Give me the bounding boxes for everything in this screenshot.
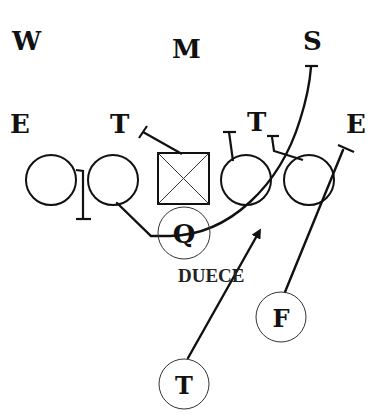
- right-guard-block: [223, 132, 236, 161]
- tailback-route: [188, 232, 259, 358]
- center-player: [158, 153, 209, 204]
- left-tackle-player: [26, 155, 76, 205]
- right-guard-player: [221, 155, 271, 205]
- quarterback-player: Q: [158, 207, 210, 259]
- defender-s-label: S: [303, 26, 322, 56]
- right-tackle-player: [284, 155, 334, 205]
- fullback-block-end: [338, 145, 354, 152]
- defender-right-end-label: E: [346, 109, 366, 139]
- defender-left-end-label: E: [10, 109, 30, 139]
- svg-text:Q: Q: [173, 219, 196, 249]
- fullback-player: F: [256, 292, 306, 342]
- defender-right-tackle-label: T: [247, 107, 267, 137]
- play-diagram: W M S E T T E Q DUECE: [0, 0, 375, 419]
- fullback-route: [285, 150, 343, 292]
- center-block: [139, 126, 182, 154]
- svg-text:F: F: [272, 304, 289, 333]
- defender-m-label: M: [172, 34, 201, 64]
- defender-left-tackle-label: T: [110, 109, 130, 139]
- guard-pull-route: [117, 67, 311, 236]
- svg-text:T: T: [175, 371, 193, 400]
- defender-w-label: W: [11, 26, 42, 56]
- tailback-player: T: [159, 359, 209, 409]
- play-name-label: DUECE: [178, 265, 245, 286]
- left-guard-player: [88, 155, 138, 205]
